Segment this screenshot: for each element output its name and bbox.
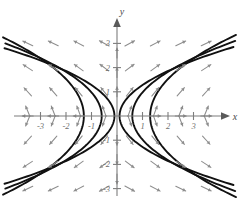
x-tick-label: -2 (62, 121, 70, 131)
x-tick-label: 1 (140, 121, 144, 131)
x-axis-label: x (232, 111, 238, 122)
x-tick-label: 3 (190, 121, 195, 131)
x-tick-label: -1 (88, 121, 95, 131)
y-tick-label: 3 (105, 38, 110, 48)
x-tick-label: 2 (166, 121, 171, 131)
y-tick-label: -1 (103, 135, 110, 145)
y-axis-arrowhead (113, 18, 121, 27)
y-tick-label: -2 (103, 159, 111, 169)
y-tick-label: -3 (103, 184, 110, 194)
x-tick-label: -3 (37, 121, 44, 131)
x-axis-arrowhead (221, 112, 230, 120)
plot-canvas: -3-2-1123-3-2-1123 x y (0, 0, 249, 202)
y-axis-label: y (119, 6, 125, 17)
y-tick-label: 1 (106, 87, 110, 97)
y-tick-label: 2 (106, 63, 111, 73)
slope-field-figure: -3-2-1123-3-2-1123 x y (0, 0, 249, 202)
